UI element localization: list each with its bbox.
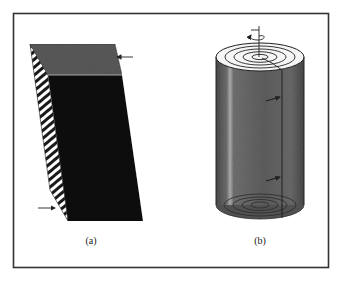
cylinder-body <box>216 57 304 205</box>
cylinder-top <box>216 43 304 71</box>
panel-b: (b) <box>216 26 304 247</box>
panel-b-label: (b) <box>254 235 266 247</box>
rotation-arrow-icon <box>250 30 264 40</box>
panel-a: (a) <box>30 44 143 247</box>
figure: (a) (b) <box>0 0 340 282</box>
panel-a-label: (a) <box>85 235 96 247</box>
